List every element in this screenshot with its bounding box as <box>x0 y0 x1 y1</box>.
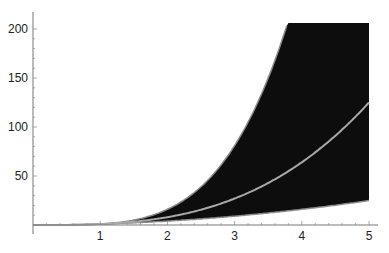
x-tick-label: 2 <box>164 229 171 243</box>
x-tick-label: 4 <box>298 229 305 243</box>
x-tick-label: 5 <box>366 229 373 243</box>
chart: 12345 50100150200 <box>0 0 389 253</box>
x-tick-label: 3 <box>231 229 238 243</box>
plot-area <box>33 23 369 225</box>
y-tick-label: 150 <box>8 71 28 85</box>
y-tick-label: 50 <box>15 169 29 183</box>
y-tick-label: 200 <box>8 22 28 36</box>
x-tick-label: 1 <box>97 229 104 243</box>
y-axis: 50100150200 <box>8 12 37 234</box>
y-tick-label: 100 <box>8 120 28 134</box>
band-area <box>33 23 369 225</box>
